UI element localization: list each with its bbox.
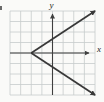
crop-artifact-mark bbox=[0, 6, 2, 10]
y-axis-label: y bbox=[49, 0, 54, 10]
coordinate-graph: x y bbox=[0, 0, 104, 102]
graph-canvas: x y bbox=[0, 0, 104, 102]
x-axis-label: x bbox=[96, 44, 101, 54]
